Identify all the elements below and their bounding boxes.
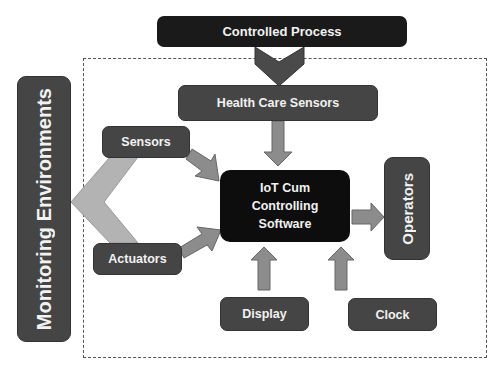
clock-label: Clock — [375, 308, 409, 322]
arrow-right-down-icon — [186, 149, 219, 181]
iot-software-node: IoT Cum Controlling Software — [220, 170, 350, 242]
display-node: Display — [220, 297, 309, 331]
arrow-right-up-icon — [179, 227, 221, 258]
health-care-sensors-node: Health Care Sensors — [178, 85, 378, 121]
monitoring-environments-label: Monitoring Environments — [33, 88, 56, 330]
sensors-label: Sensors — [121, 135, 170, 149]
arrow-down-icon — [264, 121, 292, 166]
iot-software-line1: IoT Cum — [260, 179, 310, 197]
sensors-node: Sensors — [102, 126, 190, 158]
actuators-label: Actuators — [108, 252, 166, 266]
operators-node: Operators — [384, 157, 430, 260]
chevron-left-icon — [71, 157, 138, 243]
clock-node: Clock — [348, 298, 437, 331]
operators-label: Operators — [399, 173, 416, 245]
controlled-process-label: Controlled Process — [222, 24, 341, 39]
display-label: Display — [242, 307, 286, 321]
arrow-up-icon — [251, 247, 277, 290]
iot-software-line2: Controlling — [252, 197, 319, 215]
iot-software-line3: Software — [259, 215, 312, 233]
arrow-right-icon — [352, 203, 384, 231]
chevron-down-icon — [255, 47, 304, 86]
arrow-up-icon — [328, 247, 354, 290]
monitoring-environments-node: Monitoring Environments — [17, 76, 71, 342]
controlled-process-node: Controlled Process — [157, 16, 407, 47]
health-care-sensors-label: Health Care Sensors — [217, 96, 339, 110]
actuators-node: Actuators — [93, 243, 182, 275]
